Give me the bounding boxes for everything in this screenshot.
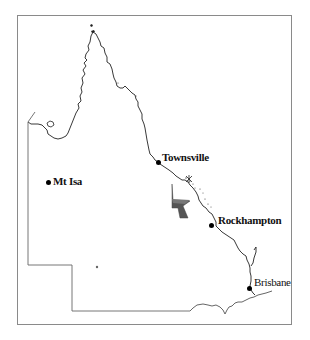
coastline-east xyxy=(93,32,255,295)
rockhampton-label: Rockhampton xyxy=(218,215,281,226)
minor-marker xyxy=(96,266,98,268)
coastline-west xyxy=(28,32,93,139)
townsville-marker xyxy=(156,160,161,165)
brisbane-marker xyxy=(247,286,252,291)
queensland-map xyxy=(0,0,310,340)
state-border-south xyxy=(190,291,272,314)
torres-islands xyxy=(90,24,95,33)
fraser-island xyxy=(251,247,256,266)
gulf-island xyxy=(47,121,54,127)
brisbane-label: Brisbane xyxy=(254,277,291,288)
mt-isa-marker xyxy=(46,180,51,185)
mt-isa-label: Mt Isa xyxy=(53,176,82,187)
nt-border-stub xyxy=(28,112,35,122)
townsville-label: Townsville xyxy=(162,152,209,163)
rockhampton-marker xyxy=(209,223,214,228)
coastal-islands xyxy=(117,82,211,207)
